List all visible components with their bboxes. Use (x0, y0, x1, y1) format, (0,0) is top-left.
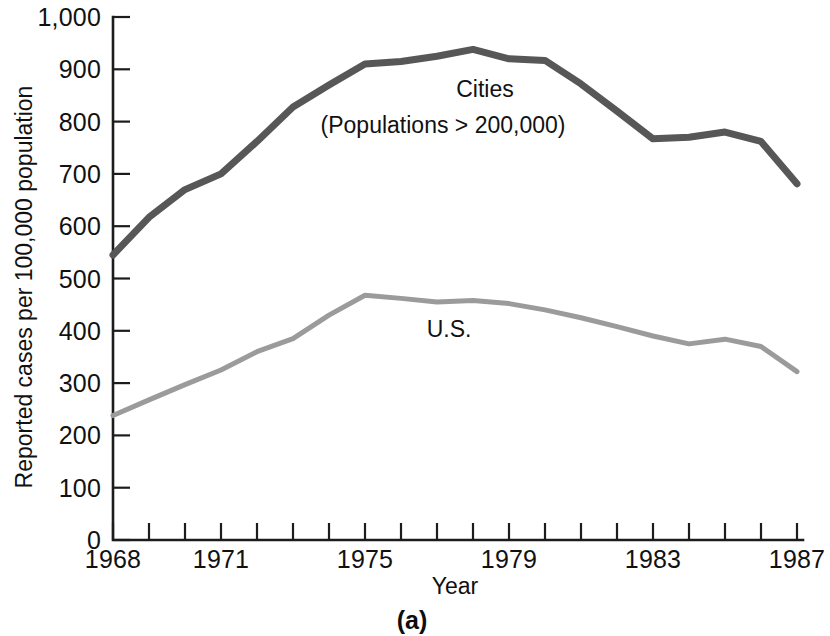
y-axis-title: Reported cases per 100,000 population (11, 86, 37, 489)
y-tick-label: 100 (59, 474, 101, 502)
x-tick-label: 1979 (481, 545, 537, 573)
x-axis-tick-labels: 196819711975197919831987 (85, 545, 825, 573)
y-tick-label: 900 (59, 55, 101, 83)
y-tick-label: 700 (59, 160, 101, 188)
y-axis-ticks (113, 17, 130, 540)
x-tick-label: 1971 (193, 545, 249, 573)
line-series-cities (113, 49, 797, 255)
figure-panel-a: 01002003004005006007008009001,000 196819… (0, 0, 830, 636)
y-tick-label: 300 (59, 369, 101, 397)
x-axis-ticks (113, 523, 797, 540)
panel-caption: (a) (397, 606, 428, 634)
line-series-us (113, 295, 797, 415)
x-tick-label: 1987 (769, 545, 825, 573)
y-tick-label: 400 (59, 317, 101, 345)
series-label-cities-line1: Cities (456, 76, 514, 102)
y-tick-label: 500 (59, 265, 101, 293)
x-tick-label: 1983 (625, 545, 681, 573)
y-tick-label: 600 (59, 212, 101, 240)
x-axis-title: Year (432, 573, 479, 599)
data-series-group (113, 49, 797, 415)
line-chart: 01002003004005006007008009001,000 196819… (0, 0, 830, 636)
x-tick-label: 1975 (337, 545, 393, 573)
y-tick-label: 1,000 (37, 3, 101, 31)
y-tick-label: 800 (59, 108, 101, 136)
series-label-cities-line2: (Populations > 200,000) (321, 112, 566, 138)
y-axis-tick-labels: 01002003004005006007008009001,000 (37, 3, 101, 554)
x-tick-label: 1968 (85, 545, 141, 573)
y-tick-label: 200 (59, 421, 101, 449)
series-label-us: U.S. (427, 316, 472, 342)
